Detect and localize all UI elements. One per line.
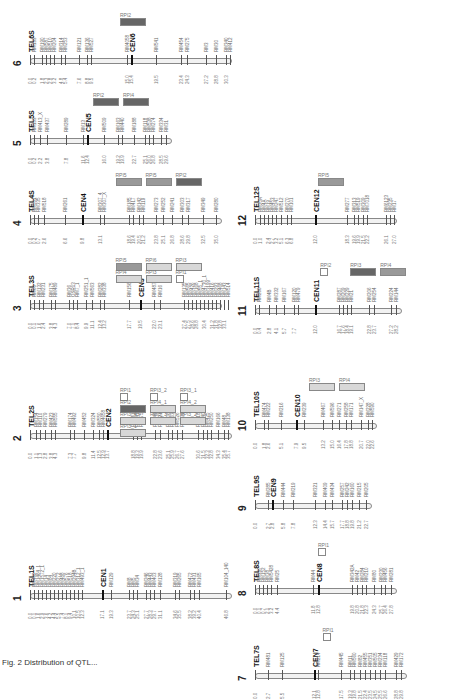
marker-tick — [156, 55, 157, 65]
marker-tick — [361, 420, 362, 430]
marker-tick — [133, 590, 134, 600]
marker-label: RM250 — [209, 412, 214, 427]
centromere-mark — [102, 590, 104, 600]
qtl-label: RPI2 — [320, 262, 331, 268]
marker-position: 25.1 — [161, 235, 166, 244]
marker-position: 26.6 — [383, 690, 388, 699]
marker-position: 19.5 — [138, 320, 143, 329]
marker-position: 0.0 — [28, 453, 33, 459]
centromere-mark — [82, 215, 84, 225]
marker-position: 26.1 — [384, 235, 389, 244]
marker-position: 11.4 — [91, 451, 96, 459]
marker-tick — [65, 55, 66, 65]
marker-label: RM555 — [53, 412, 58, 427]
marker-tick — [146, 590, 147, 600]
marker-tick — [45, 430, 46, 440]
marker-tick — [182, 430, 183, 440]
marker-position: 17.7 — [127, 320, 132, 329]
chromosome-bar — [30, 218, 222, 224]
marker-tick — [196, 300, 197, 310]
centromere-mark — [87, 135, 89, 145]
qtl-bar — [123, 98, 149, 106]
marker-position: 26.4 — [383, 605, 388, 614]
marker-tick — [160, 300, 161, 310]
marker-position: 9.8 — [80, 238, 85, 244]
centromere-mark — [131, 55, 133, 65]
marker-position: 4.4 — [275, 608, 280, 614]
marker-tick — [365, 670, 366, 680]
marker-label: RM5428 — [269, 565, 274, 582]
marker-position: 12.4 — [85, 155, 90, 164]
qtl-label: RPI3 — [146, 269, 157, 275]
marker-position: 7.9 — [294, 443, 299, 449]
qtl-label: RPI4 — [116, 269, 127, 275]
marker-tick — [318, 670, 319, 680]
marker-position: 0.0 — [253, 523, 258, 529]
marker-tick — [366, 500, 367, 510]
marker-label: RM409 — [323, 482, 328, 497]
marker-tick — [368, 420, 369, 430]
marker-tick — [228, 430, 229, 440]
marker-tick — [343, 305, 344, 315]
marker-tick — [150, 590, 151, 600]
marker-tick — [58, 590, 59, 600]
marker-position: 5.1 — [279, 238, 284, 244]
marker-position: 12.0 — [313, 235, 318, 244]
marker-tick — [272, 215, 273, 225]
marker-label: RM440 — [120, 117, 125, 132]
marker-label: RM222 — [266, 402, 271, 417]
chromosome-number: 11 — [237, 305, 248, 316]
marker-position: 34.3 — [216, 450, 221, 459]
marker-tick — [357, 585, 358, 595]
marker-tick — [70, 590, 71, 600]
centromere-mark — [314, 670, 316, 680]
marker-tick — [177, 430, 178, 440]
marker-label: RM251_1 — [84, 277, 89, 297]
marker-tick — [396, 305, 397, 315]
qtl-label: RPI3_2 — [180, 411, 197, 417]
marker-position: 5.1 — [279, 443, 284, 449]
marker-tick — [172, 215, 173, 225]
marker-position: 35.5 — [177, 610, 182, 619]
marker-label: RM518 — [42, 197, 47, 212]
marker-position: 12.3 — [80, 610, 85, 619]
marker-label: RM80 — [372, 570, 377, 582]
marker-tick — [179, 590, 180, 600]
marker-position: 28.8 — [194, 320, 199, 329]
marker-position: 2.8 — [267, 328, 272, 334]
marker-position: 27.8 — [389, 605, 394, 614]
marker-tick — [163, 215, 164, 225]
marker-tick — [358, 215, 359, 225]
marker-label: RM417 — [131, 197, 136, 212]
qtl-label: RPI3 — [309, 377, 320, 383]
marker-position: 22.7 — [364, 520, 369, 529]
marker-tick — [30, 55, 31, 65]
centromere-label: CEN9 — [270, 478, 277, 497]
marker-tick — [187, 55, 188, 65]
marker-label: RM156 — [127, 282, 132, 297]
marker-label: RM317 — [186, 197, 191, 212]
marker-tick — [73, 300, 74, 310]
marker-tick — [175, 590, 176, 600]
qtl-bar — [339, 383, 365, 391]
qtl-label: RPI3_1 — [180, 387, 197, 393]
marker-position: 6.8 — [289, 238, 294, 244]
marker-tick — [149, 135, 150, 145]
marker-tick — [391, 305, 392, 315]
marker-label: RM332 — [274, 287, 279, 302]
marker-tick — [332, 500, 333, 510]
marker-label: RM25 — [275, 570, 280, 582]
marker-position: 13.1 — [98, 235, 103, 244]
marker-position: 8.4 — [75, 323, 80, 329]
marker-tick — [133, 215, 134, 225]
marker-position: 21.2 — [357, 520, 362, 529]
marker-tick — [30, 430, 31, 440]
marker-position: 28.6 — [180, 235, 185, 244]
marker-position: 16.4 — [337, 440, 342, 449]
marker-label: RM3 — [204, 42, 209, 52]
marker-tick — [276, 215, 277, 225]
marker-label: RM335 — [36, 197, 41, 212]
marker-position: 7.6 — [77, 78, 82, 84]
marker-position: 24.3 — [185, 75, 190, 84]
marker-tick — [224, 430, 225, 440]
